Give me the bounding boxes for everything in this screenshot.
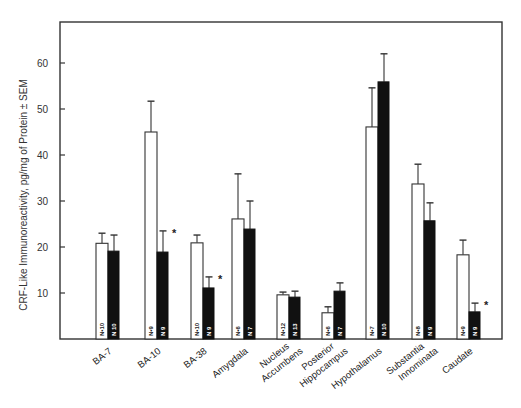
n-label-patient: N 10 bbox=[381, 323, 387, 336]
bar-group: N•6N 7 bbox=[322, 283, 345, 339]
n-label-patient: N 9 bbox=[206, 326, 212, 336]
y-tick-label: 20 bbox=[37, 242, 49, 253]
n-label-control: N•12 bbox=[280, 322, 286, 336]
svg-text:Caudate: Caudate bbox=[440, 345, 475, 376]
bar-group: N•9N 9* bbox=[457, 240, 489, 339]
n-label-patient: N 9 bbox=[160, 326, 166, 336]
y-axis: 102030405060 bbox=[37, 58, 65, 299]
y-tick-label: 40 bbox=[37, 150, 49, 161]
significance-asterisk: * bbox=[218, 273, 223, 285]
bar-group: N•8N 9 bbox=[412, 164, 435, 339]
n-label-patient: N 10 bbox=[111, 323, 117, 336]
x-tick-label: Amygdala bbox=[210, 345, 251, 380]
patient-bar bbox=[378, 82, 389, 339]
control-bar bbox=[145, 132, 157, 339]
n-label-control: N•6 bbox=[235, 326, 241, 336]
n-label-control: N•10 bbox=[194, 322, 200, 336]
y-tick-label: 60 bbox=[37, 58, 49, 69]
y-tick-label: 10 bbox=[37, 288, 49, 299]
significance-asterisk: * bbox=[172, 227, 177, 239]
svg-text:BA-38: BA-38 bbox=[181, 345, 209, 370]
bar-group: N•9N 9* bbox=[145, 101, 177, 339]
bar-group: N•12N 13 bbox=[277, 291, 300, 339]
control-bar bbox=[412, 184, 424, 339]
x-tick-label: SubstantiaInnominata bbox=[384, 335, 440, 386]
bar-chart: 102030405060 CRF-Like Immunoreactivity, … bbox=[0, 0, 521, 408]
n-label-control: N•10 bbox=[99, 322, 105, 336]
bar-group: N•10N 9* bbox=[191, 235, 223, 339]
x-axis-labels: BA-7BA-10BA-38AmygdalaNucleusAccumbensPo… bbox=[90, 335, 474, 391]
significance-asterisk: * bbox=[484, 299, 489, 311]
n-label-control: N•8 bbox=[415, 326, 421, 336]
patient-bar bbox=[157, 252, 168, 339]
bars: N•10N 10N•9N 9*N•10N 9*N•6N 7N•12N 13N•6… bbox=[96, 54, 489, 339]
svg-text:BA-10: BA-10 bbox=[135, 345, 163, 370]
control-bar bbox=[232, 219, 244, 339]
n-label-patient: N 9 bbox=[472, 326, 478, 336]
x-tick-label: BA-10 bbox=[135, 345, 163, 370]
n-label-patient: N 7 bbox=[247, 326, 253, 336]
x-tick-label: BA-38 bbox=[181, 345, 209, 370]
n-label-patient: N 9 bbox=[427, 326, 433, 336]
y-axis-label: CRF-Like Immunoreactivity, pg/mg of Prot… bbox=[18, 79, 29, 310]
x-tick-label: BA-7 bbox=[90, 345, 113, 367]
n-label-patient: N 13 bbox=[292, 323, 298, 336]
n-label-control: N•6 bbox=[325, 326, 331, 336]
x-tick-label: Caudate bbox=[440, 345, 475, 376]
svg-text:BA-7: BA-7 bbox=[90, 345, 113, 367]
n-label-patient: N 7 bbox=[337, 326, 343, 336]
y-tick-label: 50 bbox=[37, 104, 49, 115]
bar-group: N•6N 7 bbox=[232, 174, 255, 339]
control-bar bbox=[366, 127, 378, 339]
n-label-control: N•9 bbox=[148, 326, 154, 336]
n-label-control: N•7 bbox=[369, 326, 375, 336]
bar-group: N•10N 10 bbox=[96, 233, 119, 339]
x-tick-label: NucleusAccumbens bbox=[251, 335, 304, 384]
svg-text:Amygdala: Amygdala bbox=[210, 345, 251, 380]
bar-group: N•7N 10 bbox=[366, 54, 389, 339]
patient-bar bbox=[424, 221, 435, 339]
patient-bar bbox=[244, 229, 255, 339]
n-label-control: N•9 bbox=[460, 326, 466, 336]
y-tick-label: 30 bbox=[37, 196, 49, 207]
